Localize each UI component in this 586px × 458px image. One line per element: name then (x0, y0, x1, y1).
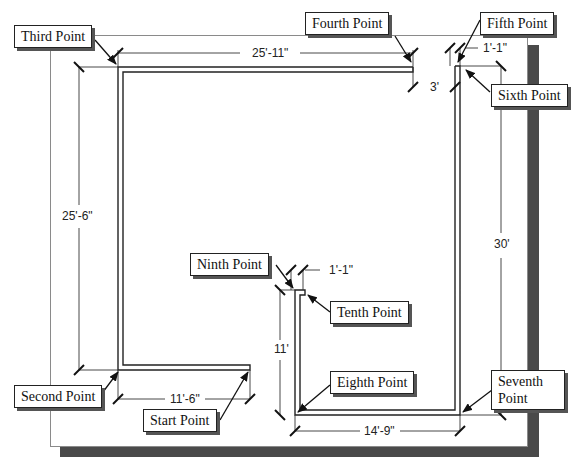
dim-ninth-offset: 1'-1" (327, 264, 355, 277)
dim-top-span: 25'-11" (250, 47, 290, 60)
dim-right-height: 30' (492, 238, 512, 251)
callout-seventh-point: Seventh Point (491, 370, 565, 410)
callout-sixth-point: Sixth Point (491, 84, 568, 107)
dim-inner-height: 11' (272, 343, 291, 356)
dim-left-height: 25'-6" (60, 210, 95, 223)
callout-fifth-point: Fifth Point (480, 12, 554, 35)
dim-bottom-left: 11'-6" (168, 393, 202, 406)
callout-eighth-point: Eighth Point (330, 371, 414, 394)
callout-third-point: Third Point (14, 25, 92, 48)
dim-bottom-right: 14'-9" (362, 425, 397, 438)
dimension-ticks (74, 43, 506, 436)
walls (118, 66, 460, 415)
callout-second-point: Second Point (14, 385, 102, 408)
callout-ninth-point: Ninth Point (190, 253, 269, 276)
callout-tenth-point: Tenth Point (330, 301, 409, 324)
callout-fourth-point: Fourth Point (305, 12, 389, 35)
dim-gap-top: 3' (428, 81, 441, 94)
callout-start-point: Start Point (143, 409, 217, 432)
diagram-stage: Third Point Fourth Point Fifth Point Six… (0, 0, 586, 458)
dim-fifth-offset: 1'-1" (481, 42, 509, 55)
dimension-lines (79, 48, 501, 431)
